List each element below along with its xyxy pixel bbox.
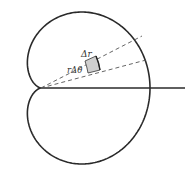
r-delta-theta-label: rΔθ: [67, 65, 82, 75]
cardioid-diagram: Δr rΔθ: [0, 0, 195, 179]
delta-r-label: Δr: [80, 49, 92, 59]
